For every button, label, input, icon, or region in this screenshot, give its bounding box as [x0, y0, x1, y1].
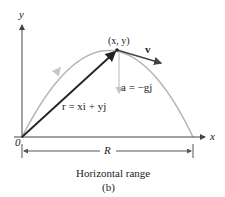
trajectory-curve — [22, 51, 193, 138]
trajectory-arrow — [56, 68, 60, 73]
x-axis-label: x — [210, 131, 215, 142]
point-label: (x, y) — [108, 36, 130, 46]
caption: Horizontal range — [76, 168, 150, 179]
velocity-label: v — [145, 44, 151, 55]
particle-point — [115, 48, 119, 52]
y-axis-label: y — [19, 9, 24, 20]
acceleration-label: a = −gj — [121, 82, 152, 93]
origin-label: 0 — [15, 137, 21, 148]
subfigure-label: (b) — [102, 182, 115, 193]
range-label: R — [104, 145, 111, 156]
position-label: r = xi + yj — [62, 101, 106, 112]
position-vector — [22, 52, 115, 137]
